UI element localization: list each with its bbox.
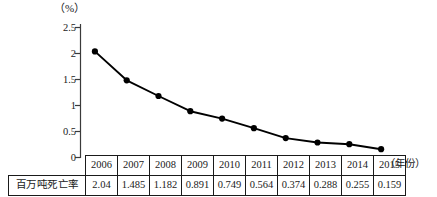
series-markers: [92, 48, 384, 152]
table-value-cell: 0.564: [246, 176, 278, 196]
data-point-marker: [92, 48, 98, 54]
data-point-marker: [378, 146, 384, 152]
x-axis-caption: （年份）: [385, 158, 425, 170]
data-table: 2006200720082009201020112012201320142015…: [8, 155, 406, 196]
table-year-cell: 2006: [86, 156, 118, 176]
table-value-cell: 0.749: [214, 176, 246, 196]
table-row-years: 2006200720082009201020112012201320142015: [9, 156, 406, 176]
table-value-cell: 0.891: [182, 176, 214, 196]
table-value-cell: 0.255: [342, 176, 374, 196]
line-chart-svg: [0, 0, 437, 165]
data-point-marker: [219, 116, 225, 122]
data-point-marker: [124, 77, 130, 83]
chart-plot-area: （%） 2.5 2 1.5 1 0.5 0: [0, 0, 437, 160]
data-point-marker: [314, 139, 320, 145]
table-row-values: 百万吨死亡率 2.041.4851.1820.8910.7490.5640.37…: [9, 176, 406, 196]
table-year-cell: 2010: [214, 156, 246, 176]
series-line-path: [95, 51, 381, 149]
data-point-marker: [155, 93, 161, 99]
table-value-cell: 1.485: [118, 176, 150, 196]
table-year-cell: 2012: [278, 156, 310, 176]
chart-figure: （%） 2.5 2 1.5 1 0.5 0: [0, 0, 437, 197]
table-value-cell: 0.374: [278, 176, 310, 196]
data-point-marker: [346, 141, 352, 147]
table-value-cell: 0.159: [374, 176, 406, 196]
table-year-cell: 2011: [246, 156, 278, 176]
table-row-label: 百万吨死亡率: [9, 176, 86, 196]
table-value-cell: 1.182: [150, 176, 182, 196]
table-year-cell: 2008: [150, 156, 182, 176]
table-value-cell: 2.04: [86, 176, 118, 196]
data-point-marker: [187, 108, 193, 114]
table-corner-cell: [9, 156, 86, 176]
data-point-marker: [251, 125, 257, 131]
data-point-marker: [283, 135, 289, 141]
table-year-cell: 2009: [182, 156, 214, 176]
table-value-cell: 0.288: [310, 176, 342, 196]
y-axis-ticks: [75, 28, 81, 158]
table-year-cell: 2013: [310, 156, 342, 176]
table-year-cell: 2007: [118, 156, 150, 176]
table-year-cell: 2014: [342, 156, 374, 176]
